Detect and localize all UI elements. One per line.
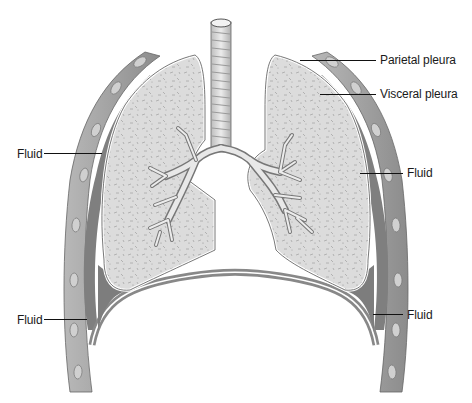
label-fluid-left-lower: Fluid bbox=[17, 313, 43, 327]
leader-fluid-left-lower bbox=[44, 319, 87, 320]
label-fluid-right-upper: Fluid bbox=[407, 166, 433, 180]
label-visceral-pleura: Visceral pleura bbox=[380, 87, 458, 101]
leader-fluid-right-upper bbox=[360, 173, 403, 174]
label-parietal-pleura: Parietal pleura bbox=[380, 53, 456, 67]
leader-fluid-left-upper bbox=[44, 153, 102, 154]
trachea bbox=[211, 19, 231, 152]
label-fluid-left-upper: Fluid bbox=[17, 147, 43, 161]
leader-visceral-pleura bbox=[320, 94, 376, 95]
leader-fluid-right-lower bbox=[373, 314, 403, 315]
label-fluid-right-lower: Fluid bbox=[407, 308, 433, 322]
leader-parietal-pleura bbox=[300, 60, 376, 61]
